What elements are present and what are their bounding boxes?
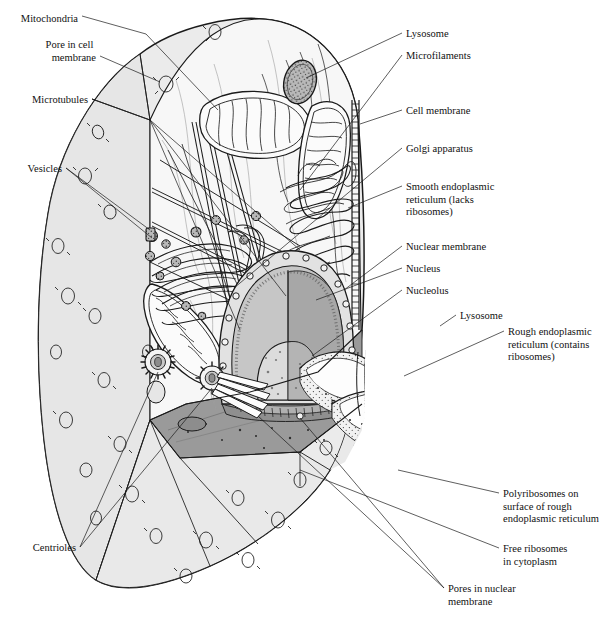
label-nuclear-membrane: Nuclear membrane <box>406 241 487 252</box>
label-pore-in-cell-membrane: Pore in cell membrane <box>46 39 97 63</box>
label-golgi-apparatus: Golgi apparatus <box>406 143 473 154</box>
label-nucleus: Nucleus <box>406 263 440 274</box>
label-vesicles: Vesicles <box>28 163 62 174</box>
figure-canvas: Mitochondria Pore in cell membrane Micro… <box>0 0 612 631</box>
leader-free-ribosomes <box>300 470 499 548</box>
label-free-ribosomes: Free ribosomes in cytoplasm <box>503 543 570 567</box>
lysosome-2 <box>412 314 456 348</box>
label-centrioles: Centrioles <box>33 542 76 553</box>
label-mitochondria: Mitochondria <box>21 13 78 24</box>
label-pores-nuclear-membrane: Pores in nuclear membrane <box>448 583 518 607</box>
label-microfilaments: Microfilaments <box>406 50 471 61</box>
label-nucleolus: Nucleolus <box>406 285 449 296</box>
label-smooth-er: Smooth endoplasmic reticulum (lacks ribo… <box>406 181 497 218</box>
leader-polyribosomes <box>398 470 499 493</box>
label-lysosome-top: Lysosome <box>406 28 449 39</box>
leader-lysosome-right <box>440 315 456 326</box>
label-microtubules: Microtubules <box>32 94 88 105</box>
label-lysosome-right: Lysosome <box>460 310 503 321</box>
cell-diagram: Mitochondria Pore in cell membrane Micro… <box>0 0 612 631</box>
leader-cell-membrane <box>360 110 402 124</box>
vesicle-near-centrioles <box>147 381 165 403</box>
centriole-end-on <box>141 345 175 379</box>
label-rough-er: Rough endoplasmic reticulum (contains ri… <box>508 326 594 363</box>
leader-pores-nuclear <box>300 418 444 588</box>
label-cell-membrane: Cell membrane <box>406 105 471 116</box>
label-polyribosomes: Polyribosomes on surface of rough endopl… <box>503 488 599 524</box>
leader-rough-er <box>404 331 504 376</box>
